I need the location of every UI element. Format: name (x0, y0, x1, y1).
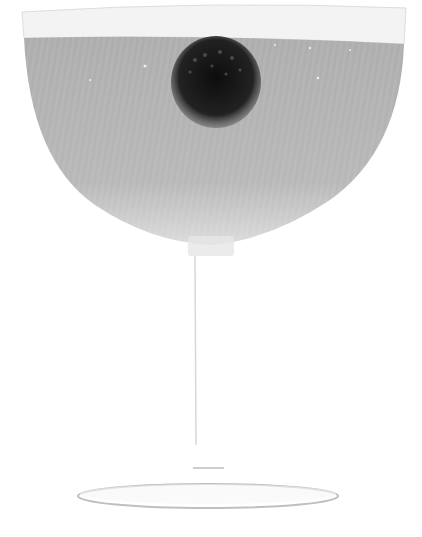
glass-stem (195, 256, 196, 445)
blackberry (171, 36, 261, 128)
stem-collar (188, 236, 234, 256)
cocktail-glass-photo (0, 0, 422, 537)
